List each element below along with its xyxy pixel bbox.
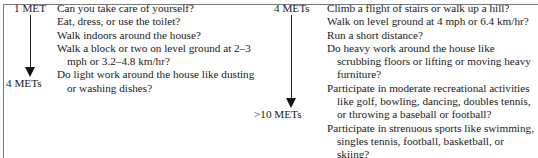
left-arrow-shaft bbox=[30, 15, 31, 70]
right-questions: Climb a flight of stairs or walk up a hi… bbox=[327, 2, 534, 158]
left-end-met-label: 4 METs bbox=[6, 77, 42, 90]
question-line: singles tennis, football, basketball, or bbox=[327, 135, 534, 148]
question-line: or washing dishes? bbox=[57, 82, 254, 95]
right-start-met-label: 4 METs bbox=[274, 2, 310, 15]
question-line: furniture? bbox=[327, 68, 534, 81]
question-line: Participate in strenuous sports like swi… bbox=[327, 122, 534, 135]
question-line: scrubbing floors or lifting or moving he… bbox=[327, 55, 534, 68]
question-line: like golf, bowling, dancing, doubles ten… bbox=[327, 95, 534, 108]
down-arrow-icon bbox=[25, 67, 35, 77]
question-line: Can you take care of yourself? bbox=[57, 2, 254, 15]
question-line: Run a short distance? bbox=[327, 29, 534, 42]
left-start-met-label: 1 MET bbox=[14, 2, 46, 15]
question-line: Participate in moderate recreational act… bbox=[327, 82, 534, 95]
question-line: Eat, dress, or use the toilet? bbox=[57, 15, 254, 28]
question-line: mph or 3.2–4.8 km/hr? bbox=[57, 55, 254, 68]
right-arrow-shaft bbox=[291, 15, 292, 101]
question-line: Do light work around the house like dust… bbox=[57, 68, 254, 81]
question-line: skiing? bbox=[327, 148, 534, 158]
left-questions: Can you take care of yourself? Eat, dres… bbox=[57, 2, 254, 95]
question-line: Walk on level ground at 4 mph or 6.4 km/… bbox=[327, 15, 534, 28]
question-line: Do heavy work around the house like bbox=[327, 42, 534, 55]
down-arrow-icon bbox=[286, 98, 296, 108]
question-line: Walk indoors around the house? bbox=[57, 29, 254, 42]
question-line: Climb a flight of stairs or walk up a hi… bbox=[327, 2, 534, 15]
right-end-met-label: >10 METs bbox=[254, 108, 301, 121]
question-line: or throwing a baseball or football? bbox=[327, 108, 534, 121]
question-line: Walk a block or two on level ground at 2… bbox=[57, 42, 254, 55]
